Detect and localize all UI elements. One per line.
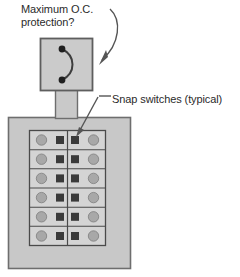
square-switch[interactable] [71,232,79,240]
square-switch[interactable] [56,155,64,163]
conduit-raceway [56,90,78,119]
circle-knob[interactable] [88,231,98,241]
circle-knob[interactable] [36,173,46,183]
circle-knob[interactable] [88,173,98,183]
square-switch[interactable] [56,194,64,202]
disconnect-box [41,39,93,91]
square-switch[interactable] [71,194,79,202]
circle-knob[interactable] [36,135,46,145]
circle-knob[interactable] [36,212,46,222]
square-switch[interactable] [71,213,79,221]
square-switch[interactable] [56,232,64,240]
diagram-canvas: Maximum O.C. protection? Snap switches (… [0,0,240,277]
diagram-graphics [0,0,240,277]
breaker-terminal-top [59,46,66,53]
square-switch[interactable] [56,174,64,182]
square-switch[interactable] [56,136,64,144]
circle-knob[interactable] [36,192,46,202]
callout-arrowhead [99,50,108,65]
circle-knob[interactable] [88,154,98,164]
circle-knob[interactable] [88,212,98,222]
square-switch[interactable] [56,213,64,221]
circle-knob[interactable] [36,231,46,241]
square-switch[interactable] [71,155,79,163]
circle-knob[interactable] [88,192,98,202]
snap-switches-label: Snap switches (typical) [112,93,240,106]
square-switch[interactable] [71,136,79,144]
circle-knob[interactable] [36,154,46,164]
breaker-terminal-bottom [59,77,66,84]
square-switch[interactable] [71,174,79,182]
maximum-oc-protection-label: Maximum O.C. protection? [21,3,116,28]
circle-knob[interactable] [88,135,98,145]
